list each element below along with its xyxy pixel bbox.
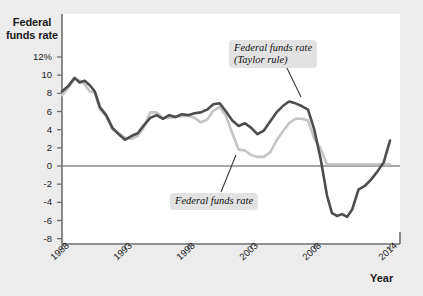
y-tick-label: 10 [12,69,52,80]
y-tick-label: 2 [12,142,52,153]
annotation-taylor-rule: Federal funds rate (Taylor rule) [229,40,317,68]
y-tick-label: 8 [12,87,52,98]
y-tick-label: 6 [12,106,52,117]
y-tick-label: 0 [12,160,52,171]
y-tick-label: 12% [12,51,52,62]
annotation-leader-lines [221,66,301,192]
y-tick-label: -2 [12,178,52,189]
x-axis-title: Year [370,272,393,284]
y-tick-label: -4 [12,196,52,207]
y-tick-label: -8 [12,233,52,244]
y-axis-title: Federal funds rate [4,16,60,41]
annotation-federal-funds-rate: Federal funds rate [170,193,258,210]
leader-line-taylor [286,66,301,97]
y-tick-label: -6 [12,215,52,226]
y-tick-label: 4 [12,124,52,135]
chart-figure: Federal funds rate Year 12%1086420-2-4-6… [0,0,423,296]
series-line-federal-funds-rate [62,79,390,164]
leader-line-actual [221,155,236,192]
